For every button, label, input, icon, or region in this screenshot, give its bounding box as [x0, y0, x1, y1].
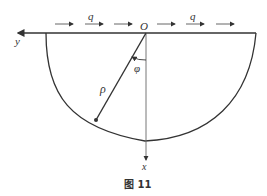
- x-axis-label: x: [141, 161, 147, 172]
- origin-label: O: [140, 20, 148, 32]
- load-label-left: q: [88, 10, 94, 22]
- radius-line: [96, 33, 146, 120]
- figure-11-diagram: O y x q q ρ φ 图 11: [0, 0, 267, 196]
- body-boundary-curve: [46, 33, 256, 141]
- angle-arc: [132, 57, 146, 60]
- radius-label: ρ: [99, 82, 106, 96]
- angle-label: φ: [134, 62, 140, 74]
- load-label-right: q: [190, 10, 196, 22]
- radius-endpoint: [94, 118, 98, 122]
- y-axis-label: y: [14, 35, 20, 47]
- figure-caption: 图 11: [124, 179, 151, 190]
